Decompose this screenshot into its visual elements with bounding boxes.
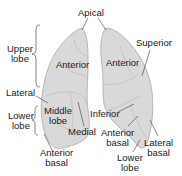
label-anterior-left: Anterior: [56, 60, 89, 70]
apical-leader-left: [82, 18, 88, 30]
label-lower-lobe-left: Lower lobe: [8, 111, 34, 131]
label-inferior: Inferior: [90, 109, 120, 119]
apical-leader-right: [98, 18, 106, 30]
label-apical: Apical: [78, 8, 104, 18]
label-anterior-basal-center: Anterior basal: [101, 128, 134, 148]
label-anterior-right: Anterior: [106, 58, 139, 68]
label-upper-lobe: Upper lobe: [7, 44, 33, 64]
label-anterior-basal-left: Anterior basal: [40, 148, 73, 168]
label-lateral-basal: Lateral basal: [144, 138, 173, 158]
label-lateral: Lateral: [6, 88, 35, 98]
label-middle-lobe: Middle lobe: [44, 106, 72, 126]
label-lower-lobe-right: Lower lobe: [117, 153, 143, 173]
label-medial: Medial: [68, 127, 96, 137]
label-superior: Superior: [136, 38, 172, 48]
upper-lobe-bracket: [32, 25, 40, 87]
